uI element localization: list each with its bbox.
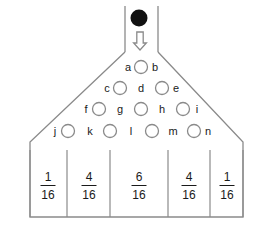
bin-numerator-3: 6 xyxy=(132,171,147,184)
galton-board-figure: abcdefghijklmn 116416616416116 xyxy=(0,0,269,231)
peg-label-m: m xyxy=(168,126,177,137)
bin-probability-1: 116 xyxy=(41,171,56,201)
falling-ball xyxy=(131,10,148,27)
bin-numerator-4: 4 xyxy=(182,171,197,184)
peg-label-k: k xyxy=(87,126,93,137)
bin-probability-2: 416 xyxy=(82,171,97,201)
peg-r1-c1 xyxy=(135,61,148,74)
peg-label-f: f xyxy=(84,104,87,115)
peg-r4-c4 xyxy=(188,125,201,138)
bin-numerator-1: 1 xyxy=(41,171,56,184)
bin-denominator-1: 16 xyxy=(41,188,56,201)
peg-r2-c2 xyxy=(156,82,169,95)
peg-label-i: i xyxy=(196,104,198,115)
peg-label-d: d xyxy=(138,83,144,94)
peg-label-l: l xyxy=(130,126,132,137)
peg-label-j: j xyxy=(54,126,56,137)
peg-r2-c1 xyxy=(114,82,127,95)
bin-denominator-5: 16 xyxy=(220,188,235,201)
bin-numerator-2: 4 xyxy=(82,171,97,184)
peg-label-n: n xyxy=(205,126,211,137)
bin-probability-5: 116 xyxy=(220,171,235,201)
bin-fraction-rule-5 xyxy=(220,185,235,186)
peg-r3-c1 xyxy=(93,103,106,116)
bin-fraction-rule-2 xyxy=(82,185,97,186)
bin-denominator-2: 16 xyxy=(82,188,97,201)
bin-probability-4: 416 xyxy=(182,171,197,201)
peg-label-g: g xyxy=(117,104,123,115)
peg-r4-c1 xyxy=(62,125,75,138)
peg-label-c: c xyxy=(104,83,110,94)
bin-numerator-5: 1 xyxy=(220,171,235,184)
peg-r3-c2 xyxy=(135,103,148,116)
bin-probability-3: 616 xyxy=(132,171,147,201)
peg-label-e: e xyxy=(173,83,179,94)
down-arrow xyxy=(134,32,147,50)
peg-label-h: h xyxy=(159,104,165,115)
peg-r4-c3 xyxy=(146,125,159,138)
bin-denominator-4: 16 xyxy=(182,188,197,201)
bin-fraction-rule-3 xyxy=(132,185,147,186)
bin-denominator-3: 16 xyxy=(132,188,147,201)
peg-r3-c3 xyxy=(177,103,190,116)
peg-label-a: a xyxy=(125,62,131,73)
bin-fraction-rule-1 xyxy=(41,185,56,186)
bin-fraction-rule-4 xyxy=(182,185,197,186)
peg-r4-c2 xyxy=(104,125,117,138)
peg-label-b: b xyxy=(152,62,158,73)
